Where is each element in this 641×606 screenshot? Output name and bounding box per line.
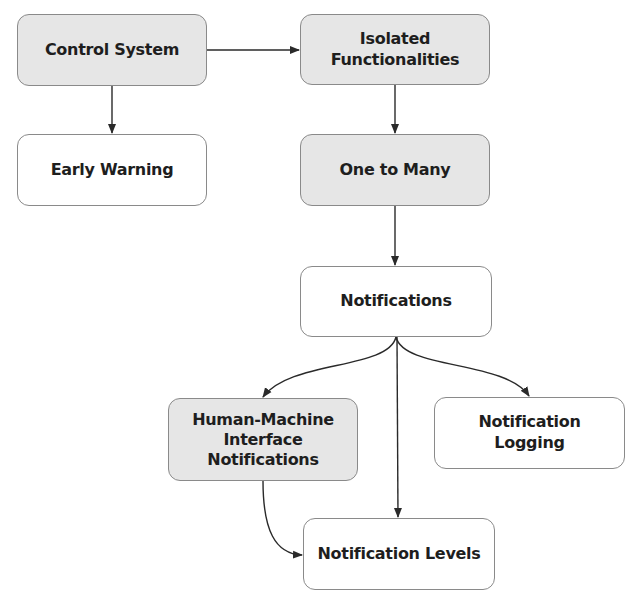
- node-notification-levels: Notification Levels: [303, 518, 495, 590]
- node-label: Early Warning: [51, 160, 174, 181]
- node-label: One to Many: [340, 160, 451, 181]
- edge-hmi-to-levels: [263, 481, 302, 555]
- node-control-system: Control System: [17, 14, 207, 86]
- node-label: Isolated Functionalities: [331, 29, 460, 71]
- node-early-warning: Early Warning: [17, 134, 207, 206]
- node-label: Notification Levels: [318, 544, 481, 565]
- node-hmi-notifications: Human-Machine Interface Notifications: [168, 398, 358, 481]
- edge-notifications-to-hmi: [263, 337, 396, 397]
- node-label: Control System: [45, 40, 179, 61]
- node-label: Notifications: [340, 291, 451, 312]
- node-label: Human-Machine Interface Notifications: [192, 410, 334, 470]
- node-isolated-functionalities: Isolated Functionalities: [300, 14, 490, 85]
- edge-notifications-to-logging: [396, 337, 529, 396]
- node-notifications: Notifications: [300, 266, 492, 337]
- node-notification-logging: Notification Logging: [434, 397, 625, 469]
- node-one-to-many: One to Many: [300, 134, 490, 206]
- edge-notifications-to-levels: [397, 337, 398, 517]
- node-label: Notification Logging: [478, 412, 580, 454]
